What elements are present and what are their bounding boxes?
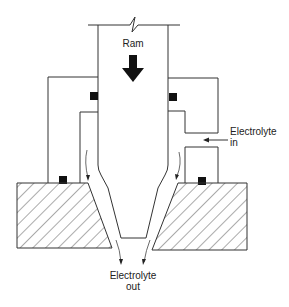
feed-arrow-icon	[122, 55, 144, 82]
workpiece-right	[152, 183, 247, 250]
workpiece-left	[17, 183, 112, 248]
electrolyte-in-label-1: Electrolyte	[230, 126, 277, 137]
ram-label: Ram	[122, 38, 143, 49]
electrolyte-out-label-2: out	[126, 281, 140, 292]
ecm-diagram: Ram Electrolyte in	[0, 0, 289, 307]
ram-break-line	[88, 17, 180, 32]
seal-upper-right	[169, 93, 177, 101]
electrolyte-in-label-2: in	[230, 137, 238, 148]
seals	[59, 92, 206, 185]
electrolyte-in-arrow-icon	[203, 138, 228, 143]
seal-upper-left	[90, 92, 98, 100]
electrolyte-out-label-1: Electrolyte	[110, 270, 157, 281]
